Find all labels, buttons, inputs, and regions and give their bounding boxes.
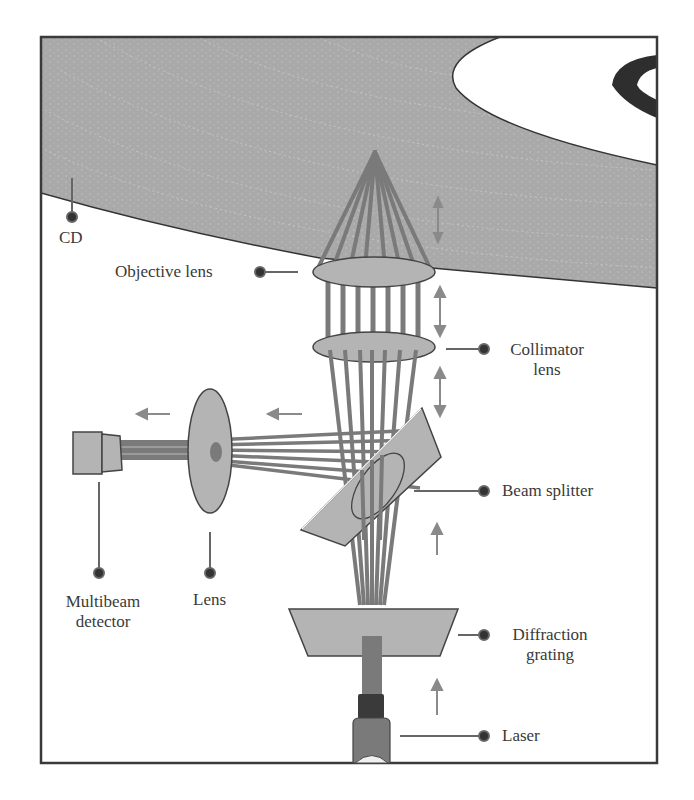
laser-dot <box>479 731 489 741</box>
diffraction-grating-dot <box>479 630 489 640</box>
left-arrow-icon <box>268 409 302 419</box>
multibeam-detector <box>73 432 122 474</box>
detector-beam-bundle <box>118 440 190 460</box>
up-arrow-icon <box>432 680 442 715</box>
beam-splitter-dot <box>479 486 489 496</box>
lens-label: Lens <box>193 590 226 610</box>
cd-dot <box>67 212 77 222</box>
lens-dot <box>205 568 215 578</box>
optical-pickup-diagram <box>0 0 694 800</box>
multibeam-detector-label: Multibeam detector <box>57 592 149 632</box>
beam-splitter-label: Beam splitter <box>502 481 593 501</box>
double-arrow-icon <box>435 287 445 336</box>
multibeam-detector-dot <box>94 568 104 578</box>
objective-lens-label: Objective lens <box>115 262 213 282</box>
collimator-lens-dot <box>479 344 489 354</box>
cd-label: CD <box>59 228 83 248</box>
lens <box>188 389 232 513</box>
double-arrow-icon <box>435 368 445 416</box>
collimator-lens-label: Collimator lens <box>504 340 590 380</box>
diffraction-grating-label: Diffraction grating <box>500 625 600 665</box>
objective-lens-dot <box>255 267 265 277</box>
laser-collar <box>358 694 384 719</box>
left-arrow-icon <box>137 409 170 419</box>
objective-lens <box>313 257 435 287</box>
laser-label: Laser <box>502 726 540 746</box>
up-arrow-icon <box>432 524 442 555</box>
